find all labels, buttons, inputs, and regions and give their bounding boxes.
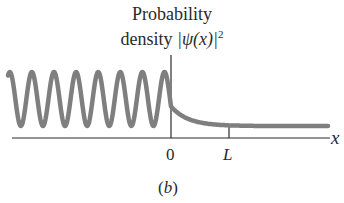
panel-label: (b): [158, 178, 178, 198]
title-line-1: Probability: [0, 4, 344, 25]
panel-label-text: (b): [158, 178, 178, 197]
x-axis-label: x: [331, 127, 339, 149]
title-line-2: density |ψ(x)|2: [0, 24, 344, 50]
probability-density-curve: [8, 72, 328, 126]
tick-label-L: L: [223, 145, 232, 165]
tick-label-zero: 0: [166, 145, 175, 165]
title-psi: |ψ(x)|: [177, 29, 218, 49]
title-density: density: [120, 29, 177, 49]
title-exponent: 2: [218, 28, 224, 40]
